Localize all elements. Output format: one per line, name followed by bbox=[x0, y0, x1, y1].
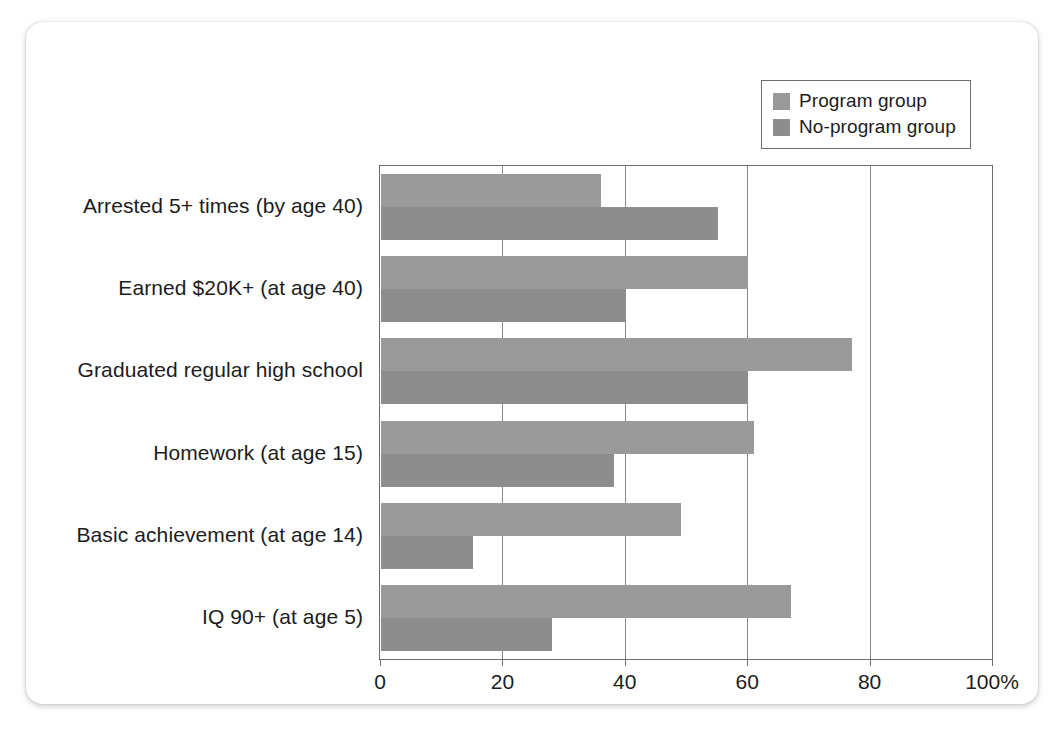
chart-legend: Program group No-program group bbox=[761, 80, 971, 149]
bar-program-group bbox=[381, 421, 754, 454]
legend-swatch-noprogram-icon bbox=[773, 119, 790, 136]
category-axis-labels: Arrested 5+ times (by age 40)Earned $20K… bbox=[26, 165, 363, 658]
legend-item-noprogram: No-program group bbox=[773, 114, 956, 140]
legend-swatch-program-icon bbox=[773, 93, 790, 110]
bar-no-program-group bbox=[381, 207, 718, 240]
category-label: IQ 90+ (at age 5) bbox=[33, 605, 363, 629]
bar-no-program-group bbox=[381, 618, 552, 651]
category-label: Graduated regular high school bbox=[33, 358, 363, 382]
bar-program-group bbox=[381, 174, 601, 207]
axis-tick-label: 20 bbox=[491, 670, 514, 694]
axis-tick bbox=[870, 660, 871, 666]
axis-tick-label: 40 bbox=[613, 670, 636, 694]
category-label: Homework (at age 15) bbox=[33, 441, 363, 465]
figure-card: Program group No-program group Arrested … bbox=[26, 22, 1038, 704]
category-label: Earned $20K+ (at age 40) bbox=[33, 276, 363, 300]
axis-tick bbox=[625, 660, 626, 666]
bar-no-program-group bbox=[381, 536, 473, 569]
legend-label-program: Program group bbox=[799, 90, 927, 112]
axis-tick bbox=[380, 660, 381, 666]
legend-item-program: Program group bbox=[773, 88, 956, 114]
category-label: Arrested 5+ times (by age 40) bbox=[33, 194, 363, 218]
bar-program-group bbox=[381, 503, 681, 536]
axis-tick-label: 60 bbox=[736, 670, 759, 694]
axis-tick bbox=[747, 660, 748, 666]
axis-tick-label: 0 bbox=[374, 670, 386, 694]
bar-group bbox=[381, 338, 992, 404]
bar-group bbox=[381, 585, 992, 651]
bar-group bbox=[381, 256, 992, 322]
bar-no-program-group bbox=[381, 371, 748, 404]
legend-label-noprogram: No-program group bbox=[799, 116, 956, 138]
bar-program-group bbox=[381, 256, 748, 289]
axis-tick-label: 80 bbox=[858, 670, 881, 694]
axis-tick bbox=[992, 660, 993, 666]
bar-program-group bbox=[381, 338, 852, 371]
bar-group bbox=[381, 503, 992, 569]
bar-group bbox=[381, 421, 992, 487]
axis-tick bbox=[502, 660, 503, 666]
bar-program-group bbox=[381, 585, 791, 618]
bar-no-program-group bbox=[381, 454, 614, 487]
plot-area: 020406080100% bbox=[379, 165, 993, 660]
bar-no-program-group bbox=[381, 289, 626, 322]
category-label: Basic achievement (at age 14) bbox=[33, 523, 363, 547]
axis-tick-label: 100% bbox=[965, 670, 1019, 694]
bar-group bbox=[381, 174, 992, 240]
